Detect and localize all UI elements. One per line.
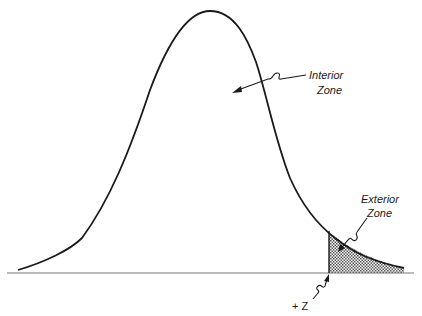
exterior-zone-arrow: [338, 218, 367, 252]
exterior-zone-label-line1: Exterior: [361, 193, 400, 205]
normal-curve-diagram: Interior Zone Exterior Zone + Z: [0, 0, 422, 316]
interior-zone-label-line2: Zone: [316, 84, 342, 96]
bell-curve: [18, 11, 404, 270]
z-marker-label: + Z: [292, 300, 308, 312]
interior-zone-label-line1: Interior: [309, 69, 345, 81]
exterior-zone-label-line2: Zone: [366, 207, 392, 219]
exterior-zone-shading: [329, 232, 404, 273]
interior-zone-arrow: [232, 73, 306, 93]
z-marker-arrow: [313, 274, 329, 299]
